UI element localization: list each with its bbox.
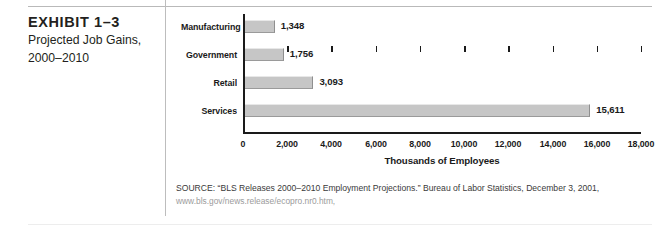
- source-url-text: www.bls.gov/news.release/ecopro.nr0.htm,: [176, 195, 646, 208]
- x-axis-tick: [376, 46, 377, 52]
- source-note: SOURCE: “BLS Releases 2000–2010 Employme…: [176, 182, 646, 207]
- bottom-edge-shade: [28, 224, 652, 225]
- x-axis-tick: [508, 46, 509, 52]
- bar-value-label: 1,756: [290, 47, 314, 60]
- x-axis-tick: [464, 46, 465, 52]
- x-axis-tick-label: 12,000: [495, 138, 521, 149]
- top-divider-rule: [28, 6, 652, 7]
- bar: [245, 20, 275, 33]
- x-axis-tick: [287, 46, 288, 52]
- bar-chart: ManufacturingGovernmentRetailServices 1,…: [176, 12, 646, 172]
- x-axis-tick-label: 4,000: [321, 138, 343, 149]
- bar: [245, 48, 284, 61]
- x-axis-tick: [420, 46, 421, 52]
- x-axis-tick-label: 18,000: [628, 138, 654, 149]
- x-axis-tick: [553, 46, 554, 52]
- x-axis-tick: [641, 46, 642, 52]
- exhibit-title: EXHIBIT 1–3: [28, 14, 156, 31]
- exhibit-page: EXHIBIT 1–3 Projected Job Gains, 2000–20…: [0, 0, 657, 238]
- x-axis-title: Thousands of Employees: [243, 155, 641, 166]
- exhibit-heading-block: EXHIBIT 1–3 Projected Job Gains, 2000–20…: [28, 14, 156, 66]
- x-axis-tick-label: 0: [241, 138, 246, 149]
- x-axis-tick-label: 6,000: [365, 138, 387, 149]
- x-axis-tick-label: 14,000: [539, 138, 565, 149]
- bar-value-label: 15,611: [596, 103, 624, 116]
- x-axis-tick-label: 8,000: [409, 138, 431, 149]
- x-axis-tick-label: 2,000: [276, 138, 298, 149]
- x-axis-tick: [597, 46, 598, 52]
- x-axis-tick: [331, 46, 332, 52]
- x-axis-tick-label: 16,000: [584, 138, 610, 149]
- bar-row: 3,093: [245, 76, 643, 89]
- bar-value-label: 3,093: [319, 75, 343, 88]
- bar: [245, 104, 590, 117]
- source-citation-text: SOURCE: “BLS Releases 2000–2010 Employme…: [176, 182, 646, 195]
- bar-value-label: 1,348: [281, 19, 305, 32]
- x-axis-line: [243, 132, 641, 134]
- exhibit-subtitle-line-1: Projected Job Gains,: [28, 33, 156, 49]
- bar-row: 15,611: [245, 104, 643, 117]
- x-axis-tick-label: 10,000: [451, 138, 477, 149]
- bar: [245, 76, 313, 89]
- exhibit-subtitle-line-2: 2000–2010: [28, 51, 156, 67]
- chart-plot-area: ManufacturingGovernmentRetailServices 1,…: [176, 12, 646, 172]
- bar-row: 1,756: [245, 48, 643, 61]
- bar-row: 1,348: [245, 20, 643, 33]
- vertical-divider-rule: [165, 0, 166, 216]
